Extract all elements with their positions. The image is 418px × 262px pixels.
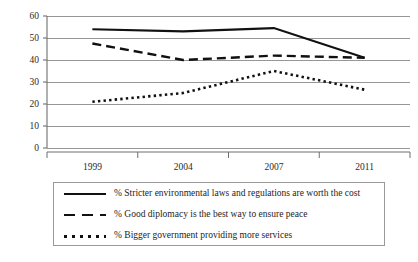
gridlines bbox=[47, 16, 410, 148]
legend-item-bigger-government: % Bigger government providing more servi… bbox=[54, 226, 384, 247]
svg-text:60: 60 bbox=[30, 11, 40, 21]
solid-line-key-icon bbox=[62, 189, 108, 199]
data-series-group bbox=[92, 28, 364, 102]
plot-area: 0102030405060 1999200420072011 bbox=[0, 0, 418, 180]
svg-text:20: 20 bbox=[30, 99, 40, 109]
legend-item-stricter-environmental-laws: % Stricter environmental laws and regula… bbox=[54, 183, 384, 204]
dashed-line-key-icon bbox=[62, 210, 108, 220]
y-axis-tick-labels: 0102030405060 bbox=[30, 11, 40, 153]
svg-text:40: 40 bbox=[30, 55, 40, 65]
legend-item-label: % Bigger government providing more servi… bbox=[114, 231, 292, 241]
svg-text:2007: 2007 bbox=[264, 162, 283, 172]
svg-text:10: 10 bbox=[30, 121, 40, 131]
svg-text:0: 0 bbox=[34, 143, 39, 153]
x-axis-ticks bbox=[47, 152, 410, 158]
x-axis-tick-labels: 1999200420072011 bbox=[83, 162, 374, 172]
y-axis-ticks bbox=[43, 16, 47, 148]
legend-item-label: % Stricter environmental laws and regula… bbox=[114, 189, 360, 199]
svg-text:2004: 2004 bbox=[174, 162, 193, 172]
dotted-line-key-icon bbox=[62, 231, 108, 241]
legend-item-good-diplomacy: % Good diplomacy is the best way to ensu… bbox=[54, 204, 384, 225]
svg-text:1999: 1999 bbox=[83, 162, 102, 172]
legend-item-label: % Good diplomacy is the best way to ensu… bbox=[114, 210, 307, 220]
svg-text:2011: 2011 bbox=[355, 162, 374, 172]
line-chart-figure: 0102030405060 1999200420072011 % Stricte… bbox=[0, 0, 418, 262]
svg-text:30: 30 bbox=[30, 77, 40, 87]
svg-text:50: 50 bbox=[30, 33, 40, 43]
chart-legend: % Stricter environmental laws and regula… bbox=[53, 182, 385, 246]
